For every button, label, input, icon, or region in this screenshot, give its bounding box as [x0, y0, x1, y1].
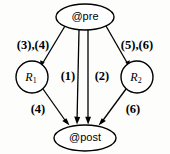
node-pre-label: @pre [71, 10, 98, 22]
edge-label-pre-post-1: (1) [61, 69, 76, 83]
edge-r1-to-post [43, 89, 70, 126]
arrow-head-r1-post [62, 118, 69, 125]
edge-pre-to-post-2 [85, 30, 91, 125]
edge-label-pre-post-2: (2) [95, 69, 110, 83]
node-r1[interactable]: R1 [16, 61, 48, 93]
edge-label-pre-r1: (3),(4) [17, 38, 49, 52]
edge-r2-to-post [99, 89, 126, 126]
node-r2-label-sub: 2 [138, 75, 142, 84]
edge-label-pre-r2: (5),(6) [121, 38, 153, 52]
edge-label-r1-post: (4) [31, 102, 46, 116]
edge-label-r2-post: (6) [126, 102, 141, 116]
arrow-head-pre-post-1 [74, 117, 80, 125]
graph-svg: @pre R1 R2 @post (3),(4) (1) (2) (5),(6)… [0, 0, 170, 154]
node-post-label: @post [69, 131, 101, 143]
arrow-head-r2-post [99, 118, 106, 125]
edge-line-r1-post [43, 89, 67, 123]
edge-line-r2-post [101, 89, 126, 123]
node-r1-label-sub: 1 [33, 75, 37, 84]
node-pre[interactable]: @pre [56, 4, 114, 30]
node-post[interactable]: @post [54, 125, 116, 151]
edge-line-pre-post-1 [77, 30, 79, 122]
arrow-head-pre-post-2 [85, 117, 91, 125]
diagram-canvas: @pre R1 R2 @post (3),(4) (1) (2) (5),(6)… [0, 0, 170, 154]
node-r2[interactable]: R2 [121, 61, 153, 93]
